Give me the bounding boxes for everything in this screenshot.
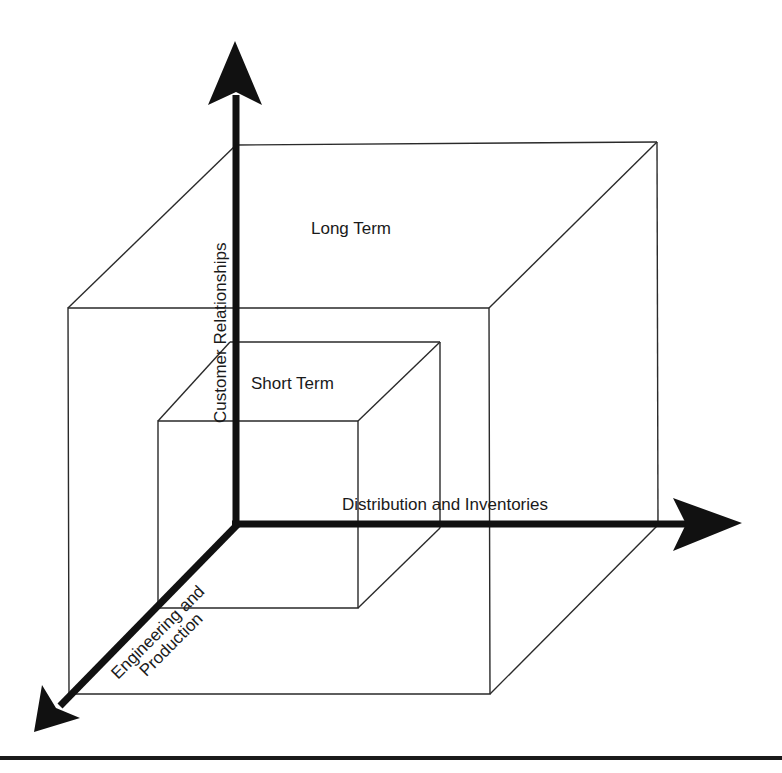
axis-label-distribution-inventories: Distribution and Inventories xyxy=(342,495,548,514)
diagonal-axis xyxy=(34,524,238,732)
region-label-short-term: Short Term xyxy=(251,374,334,393)
region-label-long-term: Long Term xyxy=(311,219,391,238)
bottom-rule-divider xyxy=(0,756,782,760)
diagram-canvas: Long Term Short Term Customer Relationsh… xyxy=(0,0,782,773)
axis-label-customer-relationships: Customer Relationships xyxy=(211,243,230,423)
